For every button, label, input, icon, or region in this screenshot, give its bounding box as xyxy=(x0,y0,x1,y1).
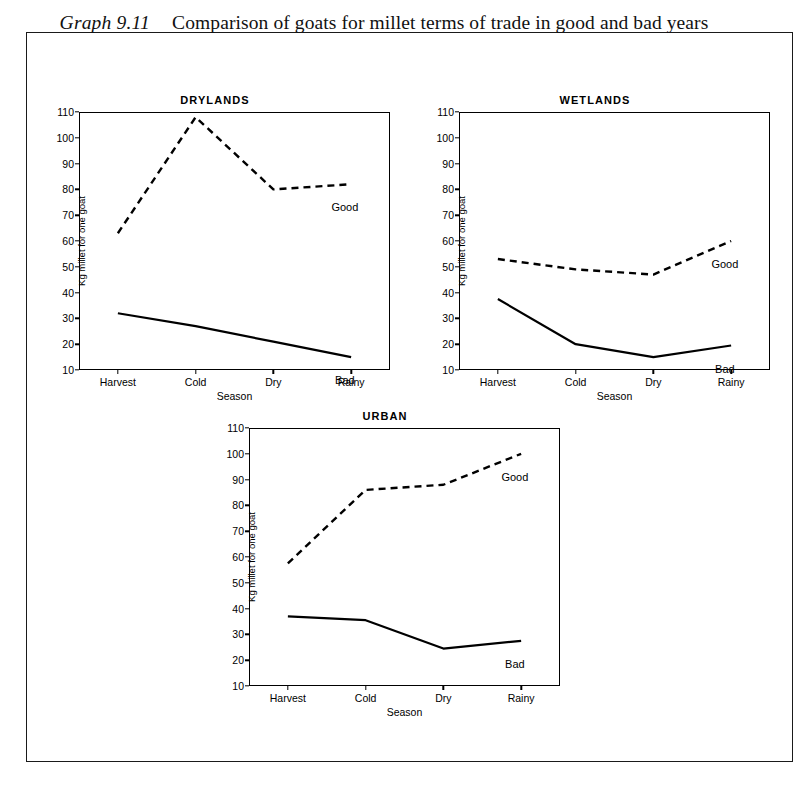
plot-area: Kg millet for one goat Season 1020304050… xyxy=(79,112,390,370)
y-tick-mark xyxy=(245,556,249,557)
y-tick-label: 80 xyxy=(62,183,74,195)
plot-area: Kg millet for one goat Season 1020304050… xyxy=(459,112,770,370)
y-tick-label: 90 xyxy=(232,474,244,486)
y-tick-mark xyxy=(245,505,249,506)
x-tick-mark xyxy=(575,370,576,374)
x-tick-label: Rainy xyxy=(508,692,535,704)
chart-panel-drylands: DRYLANDS Kg millet for one goat Season 1… xyxy=(30,92,400,402)
y-tick-mark xyxy=(455,318,459,319)
y-tick-mark xyxy=(245,427,249,428)
y-tick-label: 80 xyxy=(232,499,244,511)
x-tick-label: Dry xyxy=(435,692,451,704)
chart-title: URBAN xyxy=(200,410,570,422)
plot-lines xyxy=(249,428,560,686)
y-tick-label: 90 xyxy=(62,158,74,170)
x-tick-label: Harvest xyxy=(480,376,516,388)
y-tick-mark xyxy=(75,369,79,370)
x-tick-mark xyxy=(273,370,274,374)
plot-lines xyxy=(459,112,770,370)
y-tick-mark xyxy=(245,530,249,531)
x-axis-label: Season xyxy=(79,390,390,402)
x-tick-mark xyxy=(365,686,366,690)
x-tick-label: Dry xyxy=(645,376,661,388)
x-tick-label: Cold xyxy=(185,376,207,388)
y-tick-label: 50 xyxy=(232,577,244,589)
y-tick-label: 100 xyxy=(56,132,74,144)
x-tick-label: Cold xyxy=(355,692,377,704)
y-tick-mark xyxy=(455,369,459,370)
y-tick-label: 10 xyxy=(62,364,74,376)
y-tick-mark xyxy=(455,111,459,112)
y-tick-label: 30 xyxy=(232,628,244,640)
y-tick-mark xyxy=(75,318,79,319)
x-tick-mark xyxy=(117,370,118,374)
y-tick-mark xyxy=(455,292,459,293)
y-tick-mark xyxy=(75,343,79,344)
y-tick-label: 30 xyxy=(442,312,454,324)
y-tick-mark xyxy=(245,608,249,609)
series-line-bad xyxy=(118,313,351,357)
y-tick-label: 10 xyxy=(442,364,454,376)
y-tick-label: 100 xyxy=(436,132,454,144)
y-tick-mark xyxy=(455,266,459,267)
y-tick-label: 40 xyxy=(232,603,244,615)
y-tick-mark xyxy=(455,343,459,344)
y-tick-mark xyxy=(455,240,459,241)
plot-area: Kg millet for one goat Season 1020304050… xyxy=(249,428,560,686)
y-tick-mark xyxy=(75,137,79,138)
y-tick-label: 40 xyxy=(442,287,454,299)
y-tick-label: 20 xyxy=(442,338,454,350)
y-tick-mark xyxy=(245,582,249,583)
y-tick-mark xyxy=(75,111,79,112)
series-label-bad: Bad xyxy=(715,363,735,375)
y-tick-label: 110 xyxy=(227,422,244,434)
page-title: Graph 9.11Comparison of goats for millet… xyxy=(34,10,734,36)
series-line-bad xyxy=(498,299,731,357)
y-tick-label: 60 xyxy=(62,235,74,247)
plot-lines xyxy=(79,112,390,370)
x-tick-label: Harvest xyxy=(270,692,306,704)
x-tick-label: Dry xyxy=(265,376,281,388)
series-line-good xyxy=(498,241,731,275)
x-tick-mark xyxy=(520,686,521,690)
series-line-good xyxy=(118,117,351,233)
x-tick-label: Rainy xyxy=(718,376,745,388)
series-line-good xyxy=(288,454,521,564)
y-tick-mark xyxy=(455,137,459,138)
y-tick-label: 60 xyxy=(442,235,454,247)
y-tick-label: 110 xyxy=(437,106,454,118)
chart-panel-wetlands: WETLANDS Kg millet for one goat Season 1… xyxy=(410,92,780,402)
x-tick-mark xyxy=(653,370,654,374)
y-tick-label: 20 xyxy=(62,338,74,350)
y-tick-label: 70 xyxy=(232,525,244,537)
chart-title: DRYLANDS xyxy=(30,94,400,106)
y-tick-label: 80 xyxy=(442,183,454,195)
x-tick-mark xyxy=(443,686,444,690)
y-tick-label: 40 xyxy=(62,287,74,299)
y-tick-mark xyxy=(75,266,79,267)
y-tick-mark xyxy=(245,634,249,635)
y-tick-label: 50 xyxy=(442,261,454,273)
series-line-bad xyxy=(288,616,521,648)
x-tick-label: Cold xyxy=(565,376,587,388)
graph-number: Graph 9.11 xyxy=(60,12,150,33)
x-tick-mark xyxy=(497,370,498,374)
y-tick-label: 70 xyxy=(442,209,454,221)
series-label-good: Good xyxy=(711,258,738,270)
x-axis-label: Season xyxy=(249,706,560,718)
x-tick-mark xyxy=(195,370,196,374)
series-label-bad: Bad xyxy=(335,374,355,386)
chart-panel-urban: URBAN Kg millet for one goat Season 1020… xyxy=(200,408,570,738)
x-tick-mark xyxy=(287,686,288,690)
y-tick-mark xyxy=(75,163,79,164)
x-axis-label: Season xyxy=(459,390,770,402)
x-tick-label: Harvest xyxy=(100,376,136,388)
y-tick-mark xyxy=(455,163,459,164)
y-tick-label: 10 xyxy=(232,680,244,692)
y-tick-label: 30 xyxy=(62,312,74,324)
y-tick-mark xyxy=(75,189,79,190)
series-label-good: Good xyxy=(501,471,528,483)
y-tick-label: 50 xyxy=(62,261,74,273)
series-label-good: Good xyxy=(331,201,358,213)
y-tick-mark xyxy=(455,214,459,215)
